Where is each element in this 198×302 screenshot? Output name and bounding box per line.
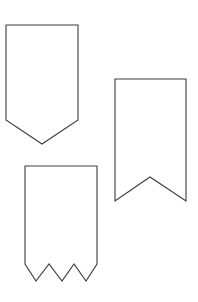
template-canvas [0, 0, 198, 302]
shape-zigzag-pennant [25, 166, 97, 281]
shape-drawing-canvas [0, 0, 198, 302]
shape-swallowtail-pennant [115, 79, 186, 201]
shape-pointed-pennant [6, 25, 78, 144]
